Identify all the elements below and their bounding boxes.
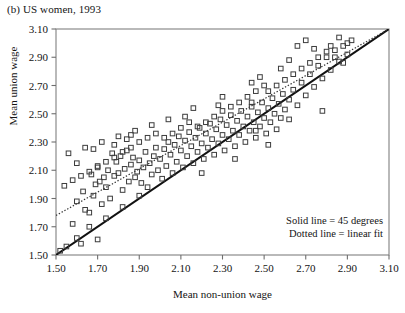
- data-point-marker: [160, 176, 165, 181]
- data-point-marker: [75, 161, 80, 166]
- y-tick-label: 1.90: [29, 193, 49, 205]
- data-point-marker: [274, 127, 279, 132]
- data-point-marker: [145, 135, 150, 140]
- data-point-marker: [172, 143, 177, 148]
- data-point-marker: [278, 116, 283, 121]
- data-point-marker: [83, 145, 88, 150]
- data-point-marker: [287, 58, 292, 63]
- data-point-marker: [283, 78, 288, 83]
- x-tick-label: 3.10: [379, 262, 399, 274]
- data-point-marker: [287, 117, 292, 122]
- data-point-marker: [143, 150, 148, 155]
- data-point-marker: [264, 131, 269, 136]
- data-point-marker: [145, 185, 150, 190]
- scatter-plot: 1.501.701.902.102.302.502.702.903.101.50…: [0, 0, 405, 313]
- data-point-marker: [87, 224, 92, 229]
- y-tick-label: 2.70: [29, 80, 49, 92]
- y-tick-label: 2.10: [29, 164, 49, 176]
- data-point-marker: [206, 145, 211, 150]
- data-point-marker: [79, 174, 84, 179]
- data-point-marker: [70, 222, 75, 227]
- data-point-marker: [231, 128, 236, 133]
- data-point-marker: [164, 164, 169, 169]
- data-point-marker: [214, 127, 219, 132]
- data-point-marker: [303, 93, 308, 98]
- data-point-marker: [179, 126, 184, 131]
- data-point-marker: [212, 114, 217, 119]
- data-point-marker: [270, 96, 275, 101]
- data-point-marker: [281, 92, 286, 97]
- data-point-marker: [95, 237, 100, 242]
- data-point-marker: [272, 111, 277, 116]
- x-tick-label: 2.10: [171, 262, 191, 274]
- data-point-marker: [291, 72, 296, 77]
- data-point-marker: [152, 154, 157, 159]
- data-point-marker: [137, 140, 142, 145]
- data-point-marker: [95, 164, 100, 169]
- data-point-marker: [220, 95, 225, 100]
- data-point-marker: [258, 75, 263, 80]
- data-point-marker: [199, 141, 204, 146]
- data-point-marker: [106, 168, 111, 173]
- data-point-marker: [262, 83, 267, 88]
- y-tick-label: 2.50: [29, 108, 49, 120]
- data-point-marker: [127, 179, 132, 184]
- data-point-marker: [122, 167, 127, 172]
- data-point-marker: [185, 154, 190, 159]
- data-point-marker: [249, 80, 254, 85]
- data-point-marker: [137, 158, 142, 163]
- data-point-marker: [243, 140, 248, 145]
- data-point-marker: [283, 107, 288, 112]
- x-tick-label: 1.50: [46, 262, 66, 274]
- data-point-marker: [324, 49, 329, 54]
- data-point-marker: [120, 188, 125, 193]
- data-point-marker: [218, 117, 223, 122]
- data-point-marker: [162, 147, 167, 152]
- data-point-marker: [266, 89, 271, 94]
- data-point-marker: [233, 144, 238, 149]
- data-point-marker: [291, 87, 296, 92]
- data-point-marker: [312, 46, 317, 51]
- data-point-marker: [156, 168, 161, 173]
- data-point-marker: [149, 172, 154, 177]
- data-point-marker: [201, 157, 206, 162]
- data-point-marker: [95, 165, 100, 170]
- data-point-marker: [320, 76, 325, 81]
- y-tick-label: 2.30: [29, 136, 49, 148]
- data-point-marker: [81, 189, 86, 194]
- data-point-marker: [139, 181, 144, 186]
- data-point-marker: [187, 120, 192, 125]
- data-point-marker: [116, 134, 121, 139]
- data-point-marker: [233, 157, 238, 162]
- data-point-marker: [220, 133, 225, 138]
- data-point-marker: [199, 171, 204, 176]
- x-tick-label: 2.90: [338, 262, 358, 274]
- data-point-marker: [174, 159, 179, 164]
- data-point-marker: [170, 131, 175, 136]
- data-point-marker: [183, 138, 188, 143]
- data-point-marker: [320, 109, 325, 114]
- legend-dotted-line-label: Dotted line = linear fit: [289, 228, 383, 239]
- data-point-marker: [254, 135, 259, 140]
- data-point-marker: [99, 202, 104, 207]
- data-point-marker: [104, 159, 109, 164]
- data-point-marker: [337, 35, 342, 40]
- data-point-marker: [70, 178, 75, 183]
- data-point-marker: [129, 162, 134, 167]
- x-tick-label: 1.90: [130, 262, 150, 274]
- data-point-marker: [141, 165, 146, 170]
- data-point-marker: [189, 144, 194, 149]
- data-point-marker: [247, 128, 252, 133]
- data-point-marker: [154, 131, 159, 136]
- data-point-marker: [193, 135, 198, 140]
- data-point-marker: [62, 183, 67, 188]
- data-point-marker: [91, 193, 96, 198]
- data-point-marker: [299, 80, 304, 85]
- data-point-marker: [222, 148, 227, 153]
- legend-solid-line-label: Solid line = 45 degrees: [286, 215, 383, 226]
- data-point-marker: [256, 110, 261, 115]
- data-point-marker: [295, 44, 300, 49]
- y-tick-label: 3.10: [29, 23, 49, 35]
- data-point-marker: [149, 123, 154, 128]
- data-point-marker: [133, 175, 138, 180]
